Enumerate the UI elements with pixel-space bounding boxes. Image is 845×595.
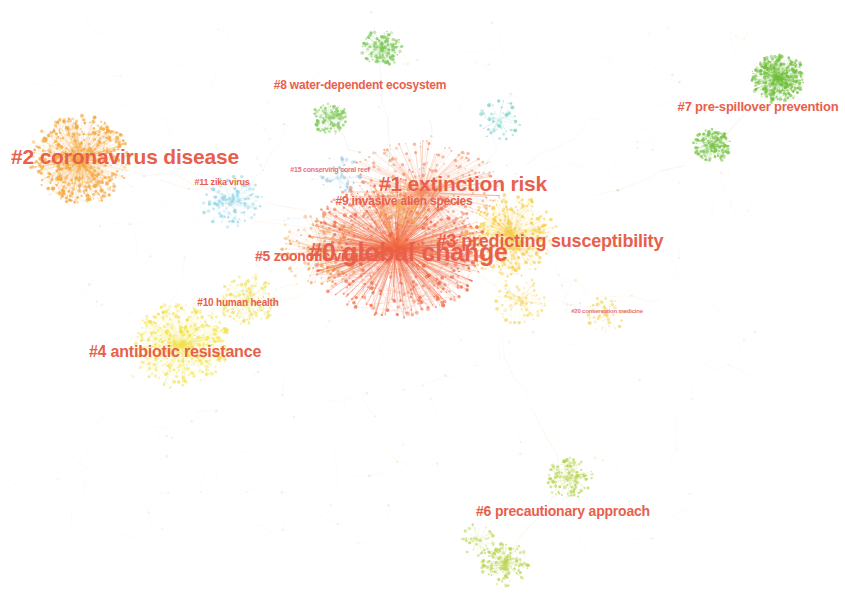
- cluster-label-1[interactable]: #1 extinction risk: [379, 172, 547, 196]
- cluster-label-11[interactable]: #11 zika virus: [194, 177, 249, 187]
- cluster-label-15[interactable]: #15 conserving coral reef: [290, 166, 369, 173]
- cluster-label-3[interactable]: #3 predicting susceptibility: [437, 231, 663, 252]
- cluster-label-4[interactable]: #4 antibiotic resistance: [89, 343, 261, 361]
- cluster-label-8[interactable]: #8 water-dependent ecosystem: [274, 78, 446, 92]
- cluster-label-20[interactable]: #20 conservation medicine: [571, 308, 643, 314]
- cluster-label-6[interactable]: #6 precautionary approach: [476, 503, 650, 519]
- cluster-label-2[interactable]: #2 coronavirus disease: [11, 145, 239, 169]
- cluster-label-layer: #0 global change#1 extinction risk#2 cor…: [0, 0, 845, 595]
- cluster-label-5[interactable]: #5 zoonotic viruses: [255, 248, 381, 264]
- cluster-label-7[interactable]: #7 pre-spillover prevention: [678, 99, 839, 114]
- network-visualization-canvas[interactable]: #0 global change#1 extinction risk#2 cor…: [0, 0, 845, 595]
- cluster-label-10[interactable]: #10 human health: [197, 297, 278, 308]
- cluster-label-9[interactable]: #9 invasive alien species: [335, 194, 472, 208]
